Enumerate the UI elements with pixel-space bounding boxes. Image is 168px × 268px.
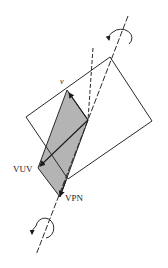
view-orientation-diagram: v VUV VPN (0, 0, 168, 268)
vpn-label: VPN (65, 193, 84, 203)
diagram-canvas: v VUV VPN (0, 0, 168, 268)
v-label: v (60, 77, 64, 86)
vuv-label: VUV (13, 164, 33, 174)
rotation-arrow-bottom-icon (32, 218, 54, 238)
